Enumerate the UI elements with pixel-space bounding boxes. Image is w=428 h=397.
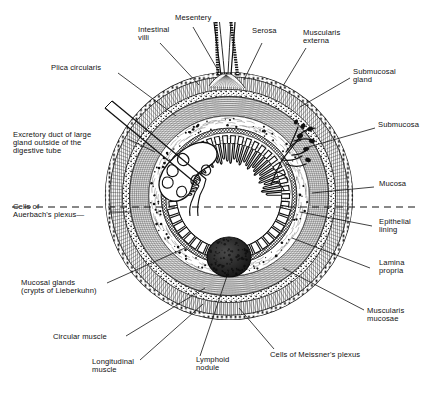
label-muscularis-mucosae-2: mucosae [367, 314, 399, 323]
label-epithelial-lining-2: lining [379, 225, 397, 234]
label-meissner-plexus: Cells of Meissner's plexus [270, 350, 360, 359]
label-excretory-duct-3: digestive tube [13, 146, 61, 155]
diagram-canvas: Mesentery Intestinal villi Serosa Muscul… [0, 0, 428, 397]
label-submucosa: Submucosa [378, 120, 420, 129]
label-serosa: Serosa [252, 26, 277, 35]
label-submucosal-gland-2: gland [353, 75, 372, 84]
label-circular-muscle: Circular muscle [53, 332, 107, 341]
label-muscularis-externa-2: externa [303, 36, 330, 45]
label-plica-circularis: Plica circularis [51, 63, 101, 72]
label-lamina-propria-2: propria [379, 266, 404, 275]
label-mucosal-glands-2: (crypts of Lieberkuhn) [21, 286, 97, 295]
label-longitudinal-muscle-2: muscle [92, 365, 117, 374]
label-mesentery: Mesentery [175, 13, 211, 22]
label-mucosa: Mucosa [379, 179, 407, 188]
intestine-cross-section-figure: Mesentery Intestinal villi Serosa Muscul… [0, 0, 428, 397]
label-lymphoid-nodule-2: nodule [196, 363, 219, 372]
label-intestinal-villi-2: villi [138, 33, 149, 42]
label-auerbach-plexus-2: Auerbach's plexus— [13, 210, 85, 219]
